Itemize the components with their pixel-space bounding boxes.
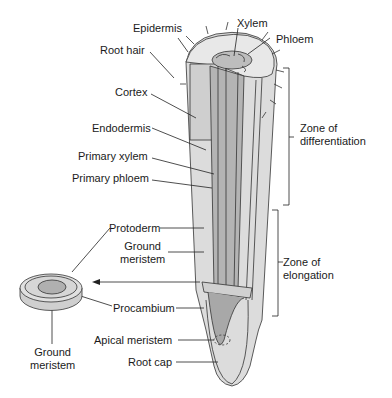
label-disc-ground-meristem: Ground meristem — [30, 346, 75, 372]
label-primary-xylem: Primary xylem — [78, 150, 148, 163]
label-primary-phloem: Primary phloem — [72, 172, 149, 185]
label-root-hair: Root hair — [100, 44, 145, 57]
label-zone-elongation: Zone of elongation — [283, 256, 334, 282]
label-zone-differentiation: Zone of differentiation — [300, 122, 366, 148]
root-diagram — [0, 0, 392, 398]
arrow — [92, 279, 200, 285]
label-cortex: Cortex — [115, 86, 147, 99]
label-phloem: Phloem — [276, 33, 313, 46]
label-xylem: Xylem — [237, 17, 268, 30]
label-endodermis: Endodermis — [92, 122, 151, 135]
label-protoderm: Protoderm — [109, 222, 160, 235]
label-epidermis: Epidermis — [133, 22, 182, 35]
label-ground-meristem: Ground meristem — [120, 240, 165, 266]
label-apical-meristem: Apical meristem — [94, 334, 172, 347]
label-procambium: Procambium — [113, 302, 175, 315]
label-root-cap: Root cap — [128, 356, 172, 369]
root-structure — [180, 22, 284, 386]
cross-section-disc — [20, 274, 82, 310]
